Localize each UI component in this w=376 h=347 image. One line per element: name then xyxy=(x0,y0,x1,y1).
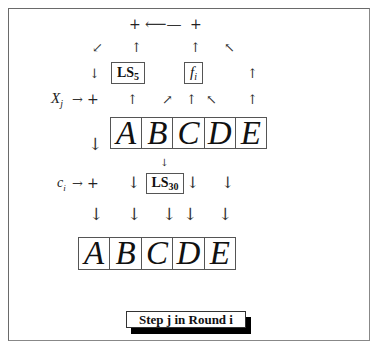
adder-xj: + xyxy=(87,92,99,106)
arrow-down-icon: ↓ xyxy=(218,206,232,223)
adder-top-left: + xyxy=(129,17,141,31)
ls30-sub: 30 xyxy=(169,181,179,192)
ls30-box: LS30 xyxy=(146,173,184,194)
arrow-right-icon: → xyxy=(72,177,83,190)
caption: Step j in Round i xyxy=(126,311,246,328)
ls5-sub: 5 xyxy=(134,71,139,82)
arrow-down-icon: ↓ xyxy=(127,206,141,223)
register-cell-d: D xyxy=(205,118,236,148)
adder-ci: + xyxy=(87,176,99,190)
arrow-up-icon: ↑ xyxy=(247,93,258,106)
register-cell-c: C xyxy=(173,118,204,148)
register-output: A B C D E xyxy=(78,237,236,270)
arrow-up-icon: ↑ xyxy=(190,41,201,54)
arrow-down-icon: ↓ xyxy=(88,136,102,153)
fi-box: fi xyxy=(184,62,203,84)
arrow-up-icon: ↑ xyxy=(247,67,258,80)
arrow-down-icon: ↓ xyxy=(162,206,176,223)
xj-label: Xj xyxy=(51,91,63,109)
fi-sub: i xyxy=(194,71,197,82)
arrow-down-icon: ↓ xyxy=(183,206,197,223)
arrow-right-icon: → xyxy=(72,93,83,106)
ls30-label: LS xyxy=(151,175,168,190)
arrow-up-icon: ↑ xyxy=(127,93,138,106)
register-cell-a: A xyxy=(79,238,110,269)
register-cell-b: B xyxy=(142,118,173,148)
arrow-down-icon: ↓ xyxy=(127,175,140,191)
arrow-down-icon: ↓ xyxy=(160,158,168,168)
arrow-sw-icon: ↙ xyxy=(92,41,103,54)
register-cell-b: B xyxy=(110,238,141,269)
arrow-up-icon: ↑ xyxy=(131,41,142,54)
ls5-label: LS xyxy=(117,65,134,80)
arrow-down-icon: ↓ xyxy=(89,67,100,80)
register-input: A B C D E xyxy=(110,117,267,149)
register-cell-c: C xyxy=(142,238,173,269)
register-cell-e: E xyxy=(205,238,235,269)
arrow-down-icon: ↓ xyxy=(221,175,234,191)
register-cell-e: E xyxy=(236,118,266,148)
arrow-ne-icon: ↗ xyxy=(162,93,173,106)
long-left-arrow-icon: ⟵— xyxy=(145,17,182,32)
arrow-nw-icon: ↖ xyxy=(206,93,217,106)
register-cell-d: D xyxy=(173,238,204,269)
arrow-nw-icon: ↖ xyxy=(224,41,235,54)
register-cell-a: A xyxy=(111,118,142,148)
ci-label: ci xyxy=(57,176,66,193)
arrow-down-icon: ↓ xyxy=(186,175,199,191)
ls5-box: LS5 xyxy=(111,62,145,84)
adder-top-right: + xyxy=(190,17,202,31)
arrow-up-icon: ↑ xyxy=(186,93,197,106)
caption-label: Step j in Round i xyxy=(126,311,246,328)
arrow-down-icon: ↓ xyxy=(89,206,103,223)
